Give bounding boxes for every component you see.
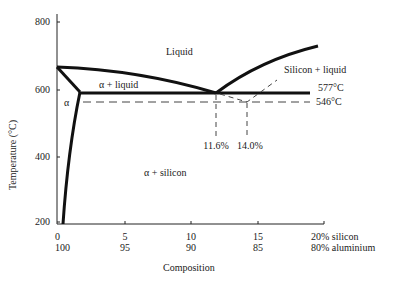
al-tick-90: 90	[186, 243, 196, 253]
label-577: 577°C	[318, 83, 344, 93]
x-tick-5: 5	[123, 232, 128, 242]
region-alpha: α	[64, 98, 69, 108]
y-tick-200: 200	[30, 217, 50, 227]
y-tick-600: 600	[30, 85, 50, 95]
x-axis-title: Composition	[163, 263, 215, 273]
alpha-solidus	[57, 67, 80, 92]
alpha-solvus	[63, 92, 80, 224]
x-tick-15: 15	[253, 232, 263, 242]
region-silicon-liquid: Silicon + liquid	[284, 65, 346, 75]
label-14-0: 14.0%	[237, 141, 263, 151]
x-tick-10: 10	[186, 232, 196, 242]
al-tick-100: 100	[55, 243, 70, 253]
region-alpha-liquid: α + liquid	[99, 80, 138, 90]
y-axis-title: Temperature (°C)	[7, 120, 18, 190]
label-11-6: 11.6%	[203, 141, 228, 151]
al-tick-95: 95	[120, 243, 130, 253]
y-tick-400: 400	[30, 152, 50, 162]
label-546: 546°C	[316, 97, 342, 107]
x-tick-20: 20% silicon	[311, 232, 359, 242]
al-tick-80: 80% aluminium	[311, 243, 375, 253]
y-tick-800: 800	[30, 17, 50, 27]
x-tick-0: 0	[55, 232, 60, 242]
al-tick-85: 85	[253, 243, 263, 253]
region-liquid: Liquid	[166, 47, 193, 57]
region-alpha-silicon: α + silicon	[144, 168, 187, 178]
